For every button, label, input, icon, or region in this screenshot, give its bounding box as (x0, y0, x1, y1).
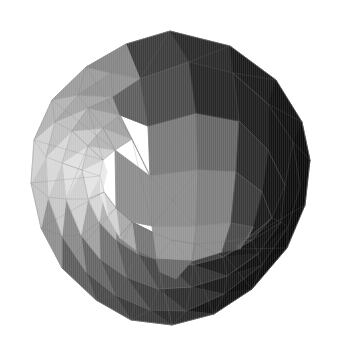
render-canvas (0, 0, 339, 351)
polyhedron-face (196, 113, 239, 172)
polyhedron-face (196, 170, 236, 226)
polyhedron-svg (0, 0, 339, 351)
